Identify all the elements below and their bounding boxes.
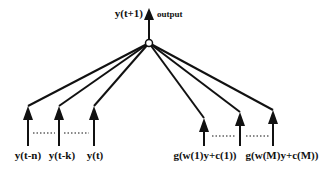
input-label: g(w(M)y+c(M)) [246,149,319,162]
arrowhead-icon [23,106,33,120]
arrowhead-icon [268,110,278,124]
input-label: g(w(1)y+c(1)) [173,149,236,162]
arrowhead-icon [199,118,209,132]
input-label: y(t) [87,149,104,162]
arrowhead-icon [144,8,154,20]
arrowhead-icon [235,112,245,126]
input-label: y(t-n) [15,149,42,162]
input-label: y(t-k) [49,149,76,162]
output-label: y(t+1) [115,7,144,20]
input-wires [28,43,273,118]
arrowhead-icon [89,106,99,120]
network-diagram: y(t+1) output y(t-n) y(t-k) y(t) g(w(1)y… [0,0,335,170]
output-arrow [144,8,154,39]
output-caption: output [157,9,183,19]
output-node [146,40,153,47]
left-input-arrows [23,106,99,146]
right-input-arrows [199,110,278,146]
arrowhead-icon [54,106,64,120]
